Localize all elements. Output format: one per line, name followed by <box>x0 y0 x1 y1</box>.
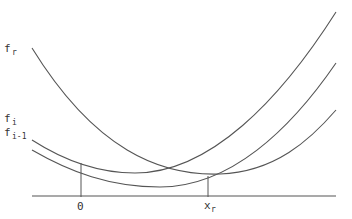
curve-f-r <box>32 48 336 174</box>
label-tick-zero: 0 <box>77 200 84 213</box>
svg-text:r: r <box>211 205 216 214</box>
diagram-canvas: f r f i f i-1 0 x r <box>0 0 352 219</box>
curve-f-i <box>32 12 336 173</box>
label-f-r: f r <box>4 42 17 57</box>
svg-text:0: 0 <box>77 200 84 213</box>
label-f-i-1: f i-1 <box>4 126 27 141</box>
svg-text:f: f <box>4 112 11 125</box>
svg-text:x: x <box>204 199 211 212</box>
svg-text:f: f <box>4 42 11 55</box>
svg-text:i-1: i-1 <box>12 132 27 141</box>
label-tick-xr: x r <box>204 199 216 214</box>
svg-text:r: r <box>12 48 17 57</box>
label-f-i: f i <box>4 112 17 127</box>
svg-text:f: f <box>4 126 11 139</box>
curve-f-i-1 <box>32 63 336 187</box>
svg-text:i: i <box>12 118 17 127</box>
